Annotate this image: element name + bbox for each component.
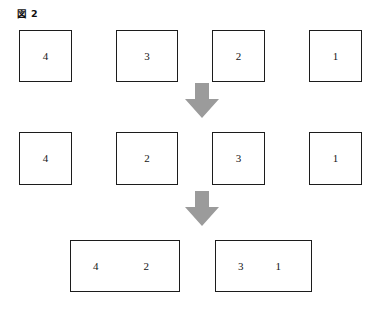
box-row2-item2: 2: [116, 132, 178, 185]
down-arrow-icon: [185, 191, 219, 226]
figure-caption: 図 2: [17, 6, 38, 20]
box-row2-item1: 4: [19, 132, 72, 185]
box-label: 3: [236, 153, 242, 164]
box-label: 2: [144, 153, 150, 164]
box-label: 2: [144, 261, 150, 272]
box-label: 3: [238, 261, 244, 272]
box-label: 4: [43, 153, 49, 164]
down-arrow-icon: [185, 83, 219, 118]
box-label: 1: [333, 153, 339, 164]
box-row3-item1: 4 2: [70, 240, 180, 292]
box-label: 1: [276, 261, 282, 272]
box-label: 2: [236, 51, 242, 62]
box-row2-item3: 3: [212, 132, 265, 185]
box-label: 3: [144, 51, 150, 62]
box-label: 4: [43, 51, 49, 62]
box-row2-item4: 1: [309, 132, 362, 185]
box-row1-item1: 4: [19, 30, 72, 82]
box-label: 4: [93, 261, 99, 272]
box-label: 1: [333, 51, 339, 62]
box-row1-item4: 1: [309, 30, 362, 82]
box-row1-item3: 2: [212, 30, 265, 82]
box-row3-item2: 3 1: [215, 240, 312, 292]
figure-canvas: 図 2 4 3 2 1 4 2 3 1 4 2 3 1: [0, 0, 379, 311]
box-row1-item2: 3: [116, 30, 178, 82]
